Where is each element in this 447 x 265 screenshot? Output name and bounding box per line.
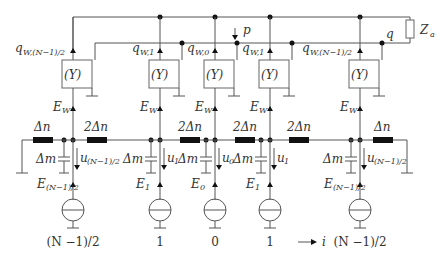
junction-dot	[235, 41, 240, 46]
u-arrow-icon	[361, 165, 367, 170]
q-label: q	[15, 41, 23, 55]
load-resistor	[406, 20, 414, 38]
inductor-label: 2Δn	[83, 120, 108, 134]
ew-arrow-icon	[70, 106, 76, 111]
q-arrow-icon	[70, 48, 76, 53]
ew-arrow-icon	[267, 106, 273, 111]
u-arrow-icon	[74, 165, 80, 170]
ew-arrow-icon	[212, 106, 218, 111]
load-label: Z	[419, 23, 429, 37]
e-sub-label: (N−1)/2	[46, 183, 79, 192]
ew-label: E	[339, 100, 349, 114]
q-label: q	[132, 41, 140, 55]
q-arrow-icon	[267, 48, 273, 53]
column-index-label: (N −1)/2	[333, 235, 386, 249]
e-label: E	[190, 177, 200, 191]
ew-sub-label: W	[259, 106, 268, 115]
ew-label: E	[194, 100, 204, 114]
p-arrow-icon	[232, 35, 238, 40]
circuit-diagram: Z a p q qW,(N−1)/2(Y)EWΔmu(N−1)/2E(N−1)/…	[0, 0, 447, 265]
e-sub-label: (N−1)/2	[333, 183, 366, 192]
ew-sub-label: W	[349, 106, 358, 115]
load-sub: a	[430, 30, 435, 39]
ew-sub-label: W	[204, 106, 213, 115]
y-block-label: (Y)	[261, 68, 279, 82]
e-sub-label: 1	[145, 183, 150, 192]
q-label: q	[302, 41, 310, 55]
inductor-label: 2Δn	[232, 120, 257, 134]
inductor	[33, 137, 53, 143]
q-arrow-icon	[212, 48, 218, 53]
ew-arrow-icon	[357, 106, 363, 111]
inductor	[180, 137, 200, 143]
y-block-label: (Y)	[206, 68, 224, 82]
q-label: q	[242, 41, 250, 55]
e-sub-label: 1	[255, 183, 260, 192]
q-sub-label: W,0	[195, 48, 209, 57]
q-sub-label: W,(N−1)/2	[23, 48, 65, 57]
column-index-label: 0	[211, 235, 219, 249]
q-arrow-icon	[357, 48, 363, 53]
inductor	[235, 137, 255, 143]
y-block-label: (Y)	[64, 68, 82, 82]
e-arrow-icon	[267, 182, 273, 187]
inductor-label: Δn	[33, 120, 50, 134]
q-sub-label: W,1	[250, 48, 264, 57]
inductor-label: 2Δn	[177, 120, 202, 134]
ew-label: E	[52, 100, 62, 114]
ew-label: E	[249, 100, 259, 114]
inductor	[87, 137, 107, 143]
junction-dot	[380, 41, 385, 46]
p-label: p	[243, 23, 251, 37]
e-label: E	[36, 177, 46, 191]
inductor-label: 2Δn	[286, 120, 311, 134]
u-arrow-icon	[271, 165, 277, 170]
capacitor-label: Δm	[232, 152, 253, 166]
q-label: q	[386, 27, 394, 41]
u-sub-label: (N−1)/2	[374, 157, 407, 166]
y-block-label: (Y)	[151, 68, 169, 82]
e-label: E	[135, 177, 145, 191]
axis-arrow-icon	[311, 239, 317, 245]
column-index-label: 1	[156, 235, 164, 249]
ew-label: E	[139, 100, 149, 114]
y-block-label: (Y)	[351, 68, 369, 82]
u-sub-label: (N−1)/2	[87, 157, 120, 166]
e-sub-label: 0	[200, 183, 205, 192]
axis-label: i	[322, 235, 326, 249]
column-index-label: (N −1)/2	[46, 235, 99, 249]
column-index-label: 1	[266, 235, 274, 249]
q-label: q	[187, 41, 195, 55]
junction-dot	[290, 41, 295, 46]
q-sub-label: W,(N−1)/2	[310, 48, 352, 57]
u-arrow-icon	[161, 165, 167, 170]
ew-arrow-icon	[157, 106, 163, 111]
u-sub-label: 1	[284, 157, 289, 166]
e-arrow-icon	[157, 182, 163, 187]
u-arrow-icon	[216, 165, 222, 170]
inductor-label: Δn	[373, 120, 390, 134]
capacitor-label: Δm	[177, 152, 198, 166]
junction-dot	[180, 41, 185, 46]
q-sub-label: W,1	[140, 48, 154, 57]
capacitor-label: Δm	[122, 152, 143, 166]
inductor	[289, 137, 309, 143]
capacitor-label: Δm	[35, 152, 56, 166]
ew-sub-label: W	[62, 106, 71, 115]
inductor	[373, 137, 393, 143]
ew-sub-label: W	[149, 106, 158, 115]
e-label: E	[245, 177, 255, 191]
e-arrow-icon	[212, 182, 218, 187]
e-label: E	[323, 177, 333, 191]
capacitor-label: Δm	[322, 152, 343, 166]
q-arrow-icon	[157, 48, 163, 53]
